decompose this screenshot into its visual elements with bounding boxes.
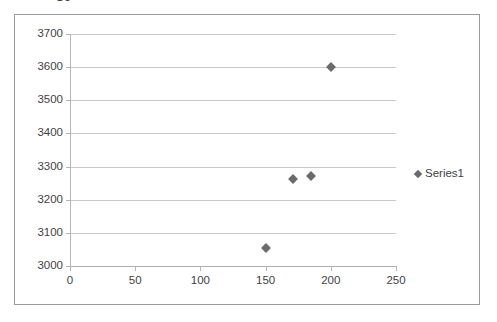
y-tick-3300 (66, 167, 71, 168)
y-axis-label-3600: 3600 (37, 61, 63, 73)
gridline-y-3400 (70, 133, 396, 134)
y-tick-3600 (66, 67, 71, 68)
x-tick-100 (200, 266, 201, 271)
y-tick-3100 (66, 233, 71, 234)
gridline-y-3200 (70, 200, 396, 201)
chart-frame[interactable]: 30003100320033003400350036003700 0501001… (14, 14, 480, 305)
gridline-y-3100 (70, 233, 396, 234)
legend[interactable]: Series1 (415, 168, 464, 180)
legend-series-label: Series1 (425, 168, 464, 180)
y-axis-label-3500: 3500 (37, 95, 63, 107)
legend-diamond-marker (414, 170, 422, 178)
x-axis-label-0: 0 (67, 275, 73, 287)
plot-area[interactable]: 30003100320033003400350036003700 0501001… (70, 34, 396, 266)
y-tick-3500 (66, 100, 71, 101)
x-axis-label-50: 50 (129, 275, 142, 287)
gridline-y-3600 (70, 67, 396, 68)
y-tick-3200 (66, 200, 71, 201)
y-axis-label-3000: 3000 (37, 260, 63, 272)
x-tick-250 (396, 266, 397, 271)
data-point[interactable] (261, 243, 271, 253)
y-axis-label-3400: 3400 (37, 128, 63, 140)
x-axis-label-150: 150 (256, 275, 275, 287)
y-axis-label-3200: 3200 (37, 194, 63, 206)
x-tick-0 (70, 266, 71, 271)
data-point[interactable] (306, 171, 316, 181)
chart-title-fragment: Sc (56, 0, 78, 3)
gridline-y-3000 (70, 266, 396, 267)
y-axis-label-3100: 3100 (37, 227, 63, 239)
x-axis-label-100: 100 (191, 275, 210, 287)
x-tick-150 (266, 266, 267, 271)
x-tick-200 (331, 266, 332, 271)
y-tick-3400 (66, 133, 71, 134)
x-axis-label-200: 200 (321, 275, 340, 287)
x-axis-label-250: 250 (386, 275, 405, 287)
x-tick-50 (135, 266, 136, 271)
data-point[interactable] (288, 174, 298, 184)
y-tick-3700 (66, 34, 71, 35)
y-axis-label-3300: 3300 (37, 161, 63, 173)
gridline-y-3500 (70, 100, 396, 101)
gridline-y-3700 (70, 34, 396, 35)
gridline-y-3300 (70, 167, 396, 168)
data-point[interactable] (326, 62, 336, 72)
y-axis-label-3700: 3700 (37, 28, 63, 40)
